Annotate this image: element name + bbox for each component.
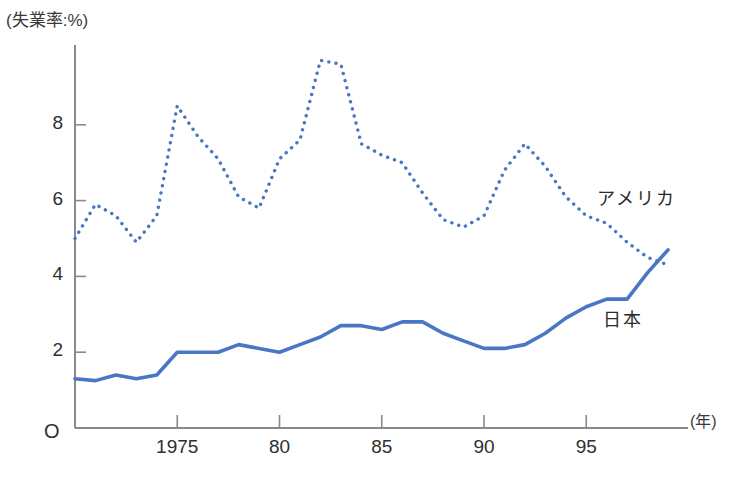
y-axis-tick-label: 8 xyxy=(37,112,63,134)
chart-plot-area xyxy=(0,0,742,480)
series-label-japan: 日本 xyxy=(603,305,643,331)
x-axis-ticks xyxy=(177,415,586,428)
x-axis-tick-label: 90 xyxy=(449,436,519,458)
x-axis-tick-label: 80 xyxy=(245,436,315,458)
y-axis-unit-label: (失業率:%) xyxy=(6,6,88,31)
series-line-usa xyxy=(75,60,668,265)
y-axis-tick-label: 2 xyxy=(37,339,63,361)
series-label-usa: アメリカ xyxy=(597,184,676,210)
series-line-japan xyxy=(75,250,668,381)
x-axis-tick-label: 1975 xyxy=(142,436,212,458)
origin-label: O xyxy=(44,420,60,443)
y-axis-tick-label: 4 xyxy=(37,263,63,285)
y-axis-tick-label: 6 xyxy=(37,188,63,210)
unemployment-rate-line-chart: (失業率:%) (年) O 2468 197580859095 アメリカ 日本 xyxy=(0,0,742,480)
data-series-layer xyxy=(75,60,668,380)
x-axis-tick-label: 95 xyxy=(551,436,621,458)
x-axis-tick-label: 85 xyxy=(347,436,417,458)
x-axis-unit-label: (年) xyxy=(690,408,717,432)
